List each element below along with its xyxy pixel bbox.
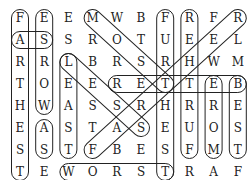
grid-letter[interactable]: B bbox=[129, 7, 153, 29]
grid-letter[interactable]: F bbox=[226, 161, 248, 180]
grid-letter[interactable]: S bbox=[129, 51, 153, 73]
grid-letter[interactable]: W bbox=[56, 161, 80, 180]
grid-letter[interactable]: W bbox=[32, 95, 56, 117]
grid-letter[interactable]: A bbox=[202, 161, 226, 180]
grid-letter[interactable]: E bbox=[129, 73, 153, 95]
grid-letter[interactable]: S bbox=[81, 95, 105, 117]
grid-letter[interactable]: T bbox=[153, 161, 177, 180]
grid-letter[interactable]: E bbox=[202, 73, 226, 95]
grid-letter[interactable]: U bbox=[153, 29, 177, 51]
grid-letter[interactable]: F bbox=[177, 139, 201, 161]
grid-letter[interactable]: S bbox=[32, 139, 56, 161]
grid-letter[interactable]: O bbox=[32, 73, 56, 95]
grid-letter[interactable]: R bbox=[105, 161, 129, 180]
grid-letter[interactable]: E bbox=[8, 117, 32, 139]
grid-letter[interactable]: A bbox=[56, 95, 80, 117]
grid-letter[interactable]: B bbox=[105, 139, 129, 161]
grid-letter[interactable]: R bbox=[105, 51, 129, 73]
grid-letter[interactable]: S bbox=[105, 95, 129, 117]
grid-letter[interactable]: S bbox=[8, 139, 32, 161]
grid-letter[interactable]: T bbox=[177, 73, 201, 95]
grid-letter[interactable]: L bbox=[56, 51, 80, 73]
grid-letter[interactable]: W bbox=[105, 7, 129, 29]
grid-letter[interactable]: T bbox=[129, 29, 153, 51]
grid-letter[interactable]: B bbox=[226, 73, 248, 95]
grid-letter[interactable]: H bbox=[177, 51, 201, 73]
grid-letter[interactable]: F bbox=[8, 7, 32, 29]
grid-letter[interactable]: T bbox=[56, 139, 80, 161]
grid-letter[interactable]: S bbox=[129, 117, 153, 139]
grid-letter[interactable]: T bbox=[81, 117, 105, 139]
grid-letter[interactable]: E bbox=[153, 117, 177, 139]
grid-letter[interactable]: E bbox=[81, 73, 105, 95]
grid-letter[interactable]: L bbox=[226, 29, 248, 51]
grid-letter[interactable]: E bbox=[177, 29, 201, 51]
grid-letter[interactable]: S bbox=[56, 117, 80, 139]
grid-letter[interactable]: E bbox=[226, 95, 248, 117]
grid-letter[interactable]: A bbox=[32, 117, 56, 139]
word-search-grid: FEEMWBFRFRASSROTUEELRRLBRSRHWMTOEERETTEB… bbox=[0, 0, 248, 180]
grid-letter[interactable]: E bbox=[56, 73, 80, 95]
grid-letter[interactable]: R bbox=[129, 95, 153, 117]
grid-letter[interactable]: R bbox=[81, 29, 105, 51]
grid-letter[interactable]: R bbox=[226, 7, 248, 29]
grid-letter[interactable]: R bbox=[8, 51, 32, 73]
grid-letter[interactable]: H bbox=[8, 95, 32, 117]
grid-letter[interactable]: T bbox=[8, 161, 32, 180]
grid-letter[interactable]: R bbox=[177, 7, 201, 29]
grid-letter[interactable]: H bbox=[153, 95, 177, 117]
grid-letter[interactable]: M bbox=[226, 51, 248, 73]
grid-letter[interactable]: S bbox=[153, 139, 177, 161]
grid-letter[interactable]: S bbox=[56, 29, 80, 51]
grid-letter[interactable]: A bbox=[105, 117, 129, 139]
grid-letter[interactable]: B bbox=[81, 51, 105, 73]
grid-letter[interactable]: O bbox=[105, 29, 129, 51]
grid-letter[interactable]: R bbox=[105, 73, 129, 95]
grid-letter[interactable]: W bbox=[202, 51, 226, 73]
grid-letter[interactable]: O bbox=[202, 117, 226, 139]
grid-letter[interactable]: R bbox=[177, 95, 201, 117]
grid-letter[interactable]: E bbox=[56, 7, 80, 29]
grid-letter[interactable]: R bbox=[32, 51, 56, 73]
grid-letter[interactable]: E bbox=[32, 7, 56, 29]
grid-letter[interactable]: F bbox=[202, 7, 226, 29]
grid-letter[interactable]: F bbox=[153, 7, 177, 29]
grid-letter[interactable]: F bbox=[81, 139, 105, 161]
grid-letter[interactable]: R bbox=[202, 95, 226, 117]
grid-letter[interactable]: E bbox=[32, 161, 56, 180]
grid-letter[interactable]: E bbox=[129, 139, 153, 161]
grid-letter[interactable]: T bbox=[153, 73, 177, 95]
grid-letter[interactable]: M bbox=[81, 7, 105, 29]
grid-letter[interactable]: U bbox=[177, 117, 201, 139]
grid-letter[interactable]: T bbox=[226, 139, 248, 161]
grid-letter[interactable]: M bbox=[202, 139, 226, 161]
grid-letter[interactable]: A bbox=[8, 29, 32, 51]
grid-letter[interactable]: T bbox=[8, 73, 32, 95]
grid-letter[interactable]: R bbox=[153, 51, 177, 73]
grid-letter[interactable]: R bbox=[177, 161, 201, 180]
grid-letter[interactable]: S bbox=[129, 161, 153, 180]
grid-letter[interactable]: E bbox=[202, 29, 226, 51]
grid-letter[interactable]: S bbox=[226, 117, 248, 139]
grid-letter[interactable]: O bbox=[81, 161, 105, 180]
grid-letter[interactable]: S bbox=[32, 29, 56, 51]
